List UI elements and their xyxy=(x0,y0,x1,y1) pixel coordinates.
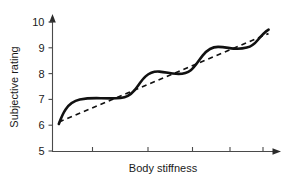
y-tick-label-10: 10 xyxy=(32,16,44,28)
series-linear-trend xyxy=(59,34,269,122)
x-axis-title: Body stiffness xyxy=(129,162,198,174)
y-tick-marks xyxy=(49,22,53,151)
y-tick-label-9: 9 xyxy=(38,42,44,54)
y-tick-label-8: 8 xyxy=(38,68,44,80)
y-axis-title: Subjective rating xyxy=(8,46,20,127)
x-tick-marks xyxy=(93,147,264,152)
y-tick-label-6: 6 xyxy=(38,119,44,131)
series-observed-response xyxy=(59,30,269,124)
y-tick-labels: 10 9 8 7 6 5 xyxy=(32,16,44,157)
x-axis-arrow-icon xyxy=(273,148,282,155)
y-tick-label-7: 7 xyxy=(38,93,44,105)
y-axis-arrow-icon xyxy=(49,14,56,23)
chart-figure: 10 9 8 7 6 5 Body stiffness Subjective r… xyxy=(0,0,289,180)
y-tick-label-5: 5 xyxy=(38,145,44,157)
chart-plot-area: 10 9 8 7 6 5 Body stiffness Subjective r… xyxy=(0,0,289,180)
